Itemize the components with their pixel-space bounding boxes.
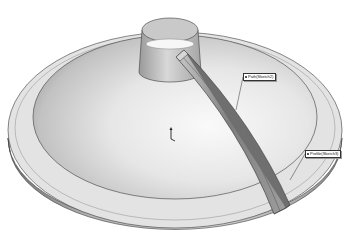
sketch-bullet-icon (307, 153, 309, 155)
profile-sketch3-callout[interactable]: Profile(Sketch3) (305, 150, 341, 158)
model-render (0, 0, 350, 239)
callout-label: Path(Sketch2) (248, 74, 273, 80)
path-sketch2-callout[interactable]: Path(Sketch2) (243, 73, 276, 81)
graphics-viewport[interactable]: Path(Sketch2) Profile(Sketch3) (0, 0, 350, 239)
callout-label: Profile(Sketch3) (310, 151, 338, 157)
sketch-bullet-icon (245, 76, 247, 78)
